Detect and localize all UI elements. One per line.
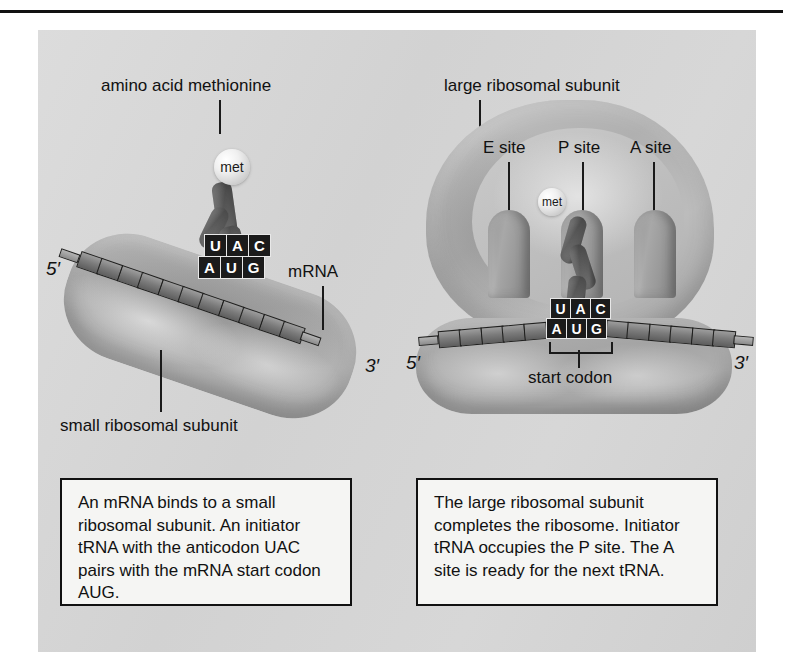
met-sphere-label: met (220, 159, 243, 175)
codon-base: U (566, 318, 587, 339)
codon-base: A (546, 318, 567, 339)
amino-acid-leader-line (219, 100, 221, 134)
anticodon-base: C (248, 234, 271, 257)
e-site-label: E site (483, 138, 526, 158)
mrna-segment (712, 329, 736, 348)
anticodon-base: U (204, 234, 227, 257)
mrna-five-prime-tail (418, 335, 439, 346)
panel-2-caption: The large ribosomal subunit completes th… (416, 478, 718, 606)
start-codon-bracket (549, 342, 613, 354)
mrna-three-prime-tail (734, 335, 755, 346)
start-codon-label: start codon (528, 368, 612, 388)
codon-pair-left: U A C A U G (198, 234, 270, 279)
codon-base: U (220, 256, 243, 279)
anticodon-base: U (550, 298, 571, 319)
panel-1-caption-text: An mRNA binds to a small ribosomal subun… (78, 493, 321, 602)
mrna-three-prime-tail (300, 331, 322, 346)
met-sphere-right: met (538, 188, 566, 216)
codon-row-right: A U G (546, 318, 610, 339)
five-prime-label-left: 5′ (46, 258, 60, 280)
e-site-column (488, 210, 530, 298)
anticodon-base: A (570, 298, 591, 319)
codon-pair-right: U A C A U G (546, 298, 610, 339)
a-site-leader-line (653, 162, 655, 212)
small-subunit-leader-line (160, 350, 162, 412)
top-divider-rule (0, 10, 783, 13)
anticodon-base: C (590, 298, 611, 319)
codon-base: A (198, 256, 221, 279)
mrna-label: mRNA (288, 262, 338, 282)
mrna-leader-line (322, 286, 324, 330)
codon-base: G (242, 256, 265, 279)
anticodon-base: A (226, 234, 249, 257)
small-subunit-label: small ribosomal subunit (60, 416, 238, 436)
met-sphere-left: met (214, 149, 250, 185)
panel-2-initiation-complete-ribosome: large ribosomal subunit E site P site A … (398, 30, 756, 652)
p-site-label: P site (558, 138, 600, 158)
a-site-label: A site (630, 138, 672, 158)
codon-base: G (586, 318, 607, 339)
three-prime-label-left: 3′ (365, 355, 379, 377)
met-sphere-label: met (542, 195, 562, 209)
panel-1-initiation-small-subunit: amino acid methionine (38, 30, 398, 652)
a-site-column (634, 210, 676, 298)
five-prime-label-right: 5′ (406, 352, 420, 374)
mrna-segment (523, 322, 547, 341)
anticodon-row-right: U A C (550, 298, 610, 319)
panel-1-caption: An mRNA binds to a small ribosomal subun… (60, 478, 352, 606)
figure-plate: amino acid methionine (38, 30, 756, 652)
e-site-leader-line (508, 162, 510, 212)
ribosome-translation-initiation-figure: amino acid methionine (0, 0, 799, 672)
panel-2-caption-text: The large ribosomal subunit completes th… (434, 493, 680, 580)
amino-acid-label: amino acid methionine (101, 76, 271, 96)
codon-row-left: A U G (198, 256, 270, 279)
anticodon-row-left: U A C (204, 234, 270, 257)
p-site-leader-line (582, 162, 584, 212)
start-codon-leader-line (578, 350, 580, 368)
three-prime-label-right: 3′ (734, 352, 748, 374)
large-subunit-label: large ribosomal subunit (444, 76, 620, 96)
